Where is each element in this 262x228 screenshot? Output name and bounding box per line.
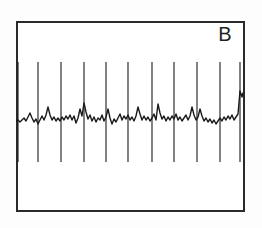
figure-panel: B <box>0 0 262 228</box>
panel-label-b: B <box>213 23 237 45</box>
spike-marker-group <box>18 62 240 162</box>
signal-trace-plot <box>16 21 245 212</box>
baseline-signal-path <box>16 91 243 124</box>
